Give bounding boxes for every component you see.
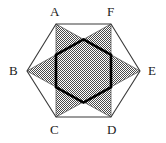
vertex-label-d: D xyxy=(107,123,116,136)
vertex-label-a: A xyxy=(50,5,59,18)
hexagram-diagram xyxy=(0,0,166,143)
vertex-label-b: B xyxy=(9,64,18,77)
figure-container: A F B E C D xyxy=(0,0,166,143)
vertex-label-f: F xyxy=(107,5,114,18)
vertex-label-c: C xyxy=(50,123,59,136)
vertex-label-e: E xyxy=(148,64,156,77)
